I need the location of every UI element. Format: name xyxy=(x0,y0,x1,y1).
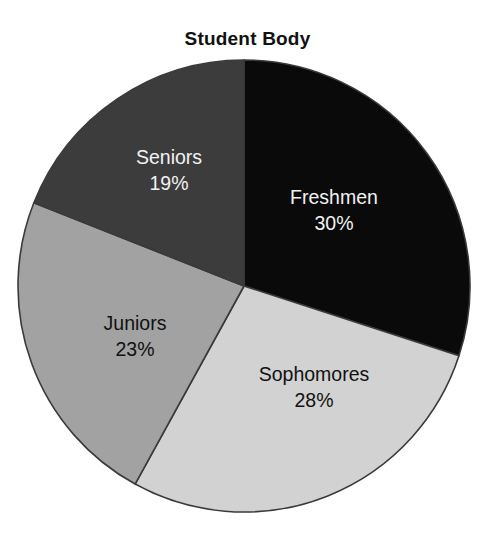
slice-label-value-freshmen: 30% xyxy=(314,212,353,234)
pie-slices-group xyxy=(18,60,470,512)
slice-label-name-freshmen: Freshmen xyxy=(290,186,378,208)
slice-label-value-seniors: 19% xyxy=(149,172,188,194)
slice-label-name-juniors: Juniors xyxy=(104,312,167,334)
slice-label-name-seniors: Seniors xyxy=(136,146,202,168)
slice-label-value-sophomores: 28% xyxy=(294,389,333,411)
pie-chart-figure: Student Body Freshmen30%Sophomores28%Jun… xyxy=(0,0,495,545)
pie-chart-svg: Freshmen30%Sophomores28%Juniors23%Senior… xyxy=(0,0,495,545)
slice-label-name-sophomores: Sophomores xyxy=(259,363,370,385)
slice-label-value-juniors: 23% xyxy=(115,338,154,360)
